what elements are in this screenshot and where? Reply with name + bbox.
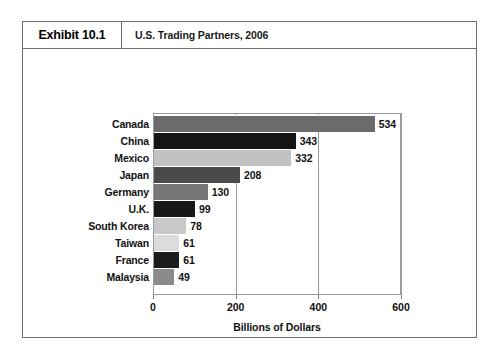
bar: [154, 217, 186, 234]
tick-mark-0: [153, 295, 154, 299]
tick-mark-400: [318, 295, 319, 299]
bar-row: 61: [154, 234, 402, 251]
bar-value-label: 61: [183, 237, 194, 249]
tick-mark-200: [236, 295, 237, 299]
bar-value-label: 332: [295, 152, 312, 164]
bar-value-label: 99: [199, 203, 210, 215]
bar-value-label: 78: [190, 220, 201, 232]
bar-row: 332: [154, 149, 402, 166]
bar-value-label: 208: [244, 169, 261, 181]
tick-label-600: 600: [392, 301, 410, 313]
exhibit-header: Exhibit 10.1 U.S. Trading Partners, 2006: [23, 22, 476, 49]
bar-row: 49: [154, 268, 402, 285]
bar: [154, 234, 179, 251]
bar-value-label: 61: [183, 254, 194, 266]
exhibit-frame: Exhibit 10.1 U.S. Trading Partners, 2006…: [22, 21, 477, 338]
category-label: Germany: [29, 186, 149, 198]
bar-value-label: 534: [379, 118, 396, 130]
tick-label-400: 400: [310, 301, 328, 313]
tick-label-200: 200: [227, 301, 245, 313]
category-label: South Korea: [29, 220, 149, 232]
category-label: Canada: [29, 118, 149, 130]
bar-row: 78: [154, 217, 402, 234]
bar: [154, 268, 174, 285]
category-label: Japan: [29, 169, 149, 181]
bar: [154, 149, 291, 166]
bar: [154, 251, 179, 268]
category-label: U.K.: [29, 203, 149, 215]
tick-mark-600: [401, 295, 402, 299]
bar-value-label: 343: [300, 135, 317, 147]
exhibit-title: U.S. Trading Partners, 2006: [135, 29, 268, 41]
bar: [154, 132, 296, 149]
bar-row: 99: [154, 200, 402, 217]
bar: [154, 166, 240, 183]
value-axis-ticks: 0200400600: [153, 295, 401, 317]
bar-row: 61: [154, 251, 402, 268]
bar-row: 208: [154, 166, 402, 183]
tick-label-0: 0: [150, 301, 156, 313]
plot-top-border: [153, 113, 401, 114]
exhibit-number-label: Exhibit 10.1: [38, 28, 105, 42]
chart-area: CanadaChinaMexicoJapanGermanyU.K.South K…: [23, 49, 476, 337]
category-axis-labels: CanadaChinaMexicoJapanGermanyU.K.South K…: [25, 113, 149, 295]
exhibit-number-box: Exhibit 10.1: [23, 22, 122, 48]
category-label: France: [29, 254, 149, 266]
bar-row: 534: [154, 115, 402, 132]
category-label: China: [29, 135, 149, 147]
bar: [154, 200, 195, 217]
category-label: Taiwan: [29, 237, 149, 249]
x-axis-title: Billions of Dollars: [153, 321, 401, 333]
bar-value-label: 130: [212, 186, 229, 198]
bar-value-label: 49: [178, 271, 189, 283]
bar: [154, 115, 375, 132]
bar-row: 343: [154, 132, 402, 149]
category-label: Malaysia: [29, 271, 149, 283]
exhibit-title-container: U.S. Trading Partners, 2006: [122, 22, 476, 48]
bar-row: 130: [154, 183, 402, 200]
bar: [154, 183, 208, 200]
category-label: Mexico: [29, 152, 149, 164]
plot-region: 5343433322081309978616149: [153, 113, 401, 295]
